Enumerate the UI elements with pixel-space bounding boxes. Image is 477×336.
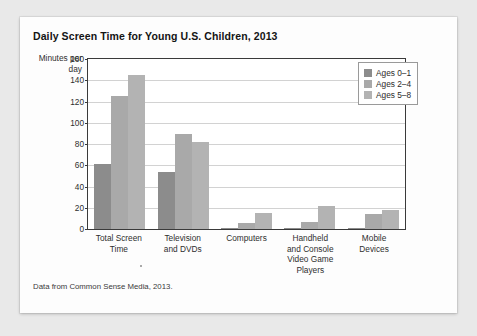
y-tick-label: 160 — [70, 54, 84, 64]
bar — [365, 214, 382, 229]
bar — [192, 142, 209, 229]
y-tick-label: 80 — [75, 139, 84, 149]
bar — [301, 222, 318, 229]
legend-item[interactable]: Ages 0–1 — [364, 67, 411, 78]
chart-legend: Ages 0–1Ages 2–4Ages 5–8 — [358, 62, 418, 105]
legend-item[interactable]: Ages 5–8 — [364, 89, 411, 100]
legend-swatch-icon — [364, 80, 372, 88]
bar-group — [278, 59, 341, 229]
y-tick-label: 60 — [75, 160, 84, 170]
x-axis-label: Total Screen Time — [87, 233, 151, 275]
x-axis-label: Handheld and Console Video Game Players — [278, 233, 342, 275]
bar — [238, 223, 255, 229]
y-tick-label: 40 — [75, 182, 84, 192]
legend-swatch-icon — [364, 69, 372, 77]
bar — [128, 75, 145, 229]
x-axis-label: Computers — [215, 233, 279, 275]
legend-label: Ages 2–4 — [376, 79, 411, 89]
bar-group — [88, 59, 151, 229]
bar — [255, 213, 272, 229]
y-tick-label: 20 — [75, 203, 84, 213]
decorative-speck — [140, 265, 142, 267]
bar — [221, 228, 238, 229]
figure-card: Daily Screen Time for Young U.S. Childre… — [20, 17, 457, 313]
legend-label: Ages 5–8 — [376, 90, 411, 100]
x-axis-label: Mobile Devices — [342, 233, 406, 275]
legend-swatch-icon — [364, 91, 372, 99]
y-tick-label: 100 — [70, 118, 84, 128]
bar — [318, 206, 335, 229]
y-tick-label: 0 — [79, 224, 84, 234]
bar-group — [151, 59, 214, 229]
gridline: 0 — [88, 229, 405, 230]
y-tick-mark — [85, 229, 88, 230]
legend-item[interactable]: Ages 2–4 — [364, 78, 411, 89]
chart-title: Daily Screen Time for Young U.S. Childre… — [33, 30, 278, 42]
bar — [94, 164, 111, 229]
bar-group — [215, 59, 278, 229]
bar — [348, 228, 365, 229]
x-axis-label: Television and DVDs — [151, 233, 215, 275]
bar — [111, 96, 128, 229]
bar — [175, 134, 192, 229]
y-tick-label: 140 — [70, 75, 84, 85]
legend-label: Ages 0–1 — [376, 68, 411, 78]
bar — [382, 210, 399, 229]
bar — [158, 172, 175, 229]
x-axis-labels: Total Screen TimeTelevision and DVDsComp… — [87, 233, 406, 275]
y-tick-label: 120 — [70, 97, 84, 107]
source-note: Data from Common Sense Media, 2013. — [33, 282, 173, 291]
page-background: Daily Screen Time for Young U.S. Childre… — [0, 0, 477, 336]
bar — [284, 228, 301, 229]
